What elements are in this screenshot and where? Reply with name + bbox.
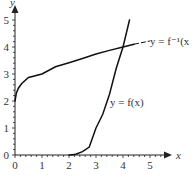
x-tick-labels: 0 1 2 3 4 5 xyxy=(12,159,153,171)
y-tick-2: 2 xyxy=(4,95,10,107)
x-axis xyxy=(15,152,172,159)
y-tick-4: 4 xyxy=(4,41,10,53)
y-tick-labels: 0 1 2 3 4 5 xyxy=(4,14,10,161)
curve-f xyxy=(69,20,130,155)
y-axis xyxy=(12,5,19,155)
x-tick-0: 0 xyxy=(12,159,18,171)
y-tick-0: 0 xyxy=(4,149,10,161)
f-inverse-leader-line xyxy=(134,41,150,44)
function-inverse-chart: 0 1 2 3 4 5 0 1 2 3 4 5 x y y = f⁻¹(x y … xyxy=(0,0,196,179)
x-tick-5: 5 xyxy=(147,159,153,171)
f-inverse-label: y = f⁻¹(x xyxy=(150,35,190,48)
y-axis-label: y xyxy=(9,0,15,8)
x-axis-label: x xyxy=(175,149,181,161)
x-tick-4: 4 xyxy=(120,159,126,171)
f-label: y = f(x) xyxy=(110,96,144,109)
x-tick-3: 3 xyxy=(93,159,99,171)
x-tick-2: 2 xyxy=(66,159,72,171)
curve-f-inverse xyxy=(15,44,134,101)
y-tick-3: 3 xyxy=(4,68,10,80)
x-tick-1: 1 xyxy=(39,159,45,171)
y-tick-1: 1 xyxy=(4,122,10,134)
y-tick-5: 5 xyxy=(4,14,10,26)
x-axis-arrow-icon xyxy=(164,152,172,159)
